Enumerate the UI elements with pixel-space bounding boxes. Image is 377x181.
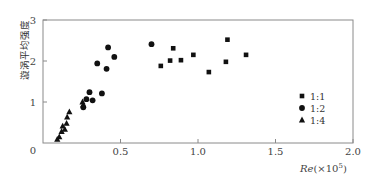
x-tick-label: 0.5 bbox=[113, 146, 129, 157]
data-point-triangle bbox=[64, 114, 70, 120]
x-axis: 0.51.01.52.0 bbox=[113, 139, 361, 157]
data-point-circle bbox=[149, 41, 155, 47]
origin-label: 0 bbox=[30, 145, 36, 156]
x-tick-label: 2.0 bbox=[345, 146, 361, 157]
data-point-circle bbox=[104, 66, 110, 72]
x-tick-label: 1.0 bbox=[190, 146, 206, 157]
data-point-circle bbox=[111, 54, 117, 60]
data-point-circle bbox=[105, 45, 111, 51]
legend: 1:11:21:4 bbox=[299, 91, 325, 126]
data-point-square bbox=[179, 58, 184, 63]
data-point-circle bbox=[87, 89, 93, 95]
triangle-icon bbox=[299, 117, 305, 123]
scatter-chart: 1230 0.51.01.52.0 漩涡平均强度 Re(×105) 1:11:2… bbox=[0, 0, 377, 181]
plot-border bbox=[43, 20, 353, 143]
legend-label: 1:4 bbox=[310, 115, 325, 126]
data-point-square bbox=[171, 46, 176, 51]
data-point-square bbox=[225, 37, 230, 42]
data-point-circle bbox=[90, 97, 96, 103]
circle-icon bbox=[299, 105, 305, 111]
legend-item: 1:4 bbox=[299, 115, 325, 126]
data-point-circle bbox=[94, 61, 100, 67]
legend-label: 1:1 bbox=[310, 91, 325, 102]
legend-label: 1:2 bbox=[310, 103, 325, 114]
x-tick-label: 1.5 bbox=[268, 146, 284, 157]
x-axis-title-unit: (×10 bbox=[313, 163, 338, 174]
data-point-square bbox=[159, 64, 164, 69]
data-points bbox=[54, 37, 248, 141]
legend-item: 1:2 bbox=[299, 103, 325, 114]
y-tick-label: 3 bbox=[30, 15, 36, 26]
plot-frame bbox=[43, 20, 353, 143]
data-point-circle bbox=[84, 96, 90, 102]
data-point-square bbox=[207, 70, 212, 75]
legend-item: 1:1 bbox=[300, 91, 326, 102]
y-tick-label: 1 bbox=[30, 97, 36, 108]
x-axis-title-close: ) bbox=[343, 163, 347, 174]
x-axis-title-re: Re bbox=[299, 163, 314, 174]
square-icon bbox=[300, 94, 305, 99]
data-point-circle bbox=[99, 90, 105, 96]
data-point-square bbox=[244, 53, 249, 58]
data-point-square bbox=[168, 58, 173, 63]
data-point-triangle bbox=[66, 108, 72, 114]
x-axis-title: Re(×105) bbox=[299, 162, 347, 174]
y-tick-label: 2 bbox=[30, 56, 36, 67]
data-point-square bbox=[191, 53, 196, 58]
data-point-square bbox=[224, 60, 229, 65]
y-axis-title: 漩涡平均强度 bbox=[19, 20, 30, 80]
y-axis: 1230 bbox=[30, 15, 47, 157]
data-point-triangle bbox=[63, 120, 69, 126]
